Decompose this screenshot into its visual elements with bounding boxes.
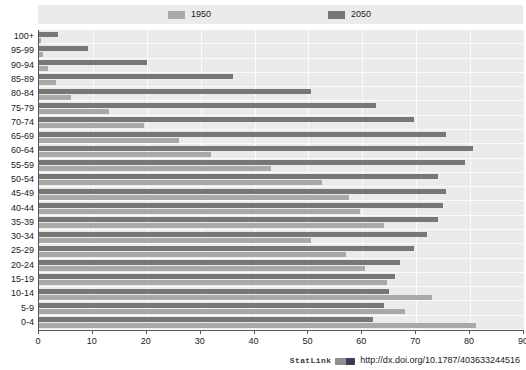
bar-1950 [39,309,405,314]
bar-2050 [39,46,88,51]
row-separator [39,315,524,316]
x-axis-tick [146,330,147,334]
y-axis-tick-label: 100+ [14,31,34,41]
x-axis-tick [523,330,524,334]
row-separator [39,158,524,159]
bar-1950 [39,295,432,300]
y-axis-tick-label: 30-34 [11,231,34,241]
y-axis-tick-label: 40-44 [11,203,34,213]
row-separator [39,215,524,216]
x-axis-tick [200,330,201,334]
bar-2050 [39,260,400,265]
y-axis-tick-label: 95-99 [11,45,34,55]
y-axis-tick-label: 20-24 [11,260,34,270]
row-separator [39,186,524,187]
x-axis-tick-label: 0 [35,336,40,346]
legend-label-1950: 1950 [191,9,211,20]
y-axis-tick-label: 90-94 [11,60,34,70]
bar-2050 [39,203,443,208]
x-axis-tick [361,330,362,334]
legend-label-2050: 2050 [351,9,371,20]
y-axis-tick-label: 85-89 [11,74,34,84]
row-separator [39,129,524,130]
x-axis-tick-label: 10 [87,336,97,346]
bar-1950 [39,138,179,143]
row-separator [39,272,524,273]
row-separator [39,100,524,101]
bar-2050 [39,274,395,279]
bar-2050 [39,232,427,237]
bar-2050 [39,303,384,308]
y-axis-tick-label: 0-4 [21,317,34,327]
bar-1950 [39,223,384,228]
bar-2050 [39,189,446,194]
bar-1950 [39,152,211,157]
x-axis-line [38,330,524,331]
x-axis-tick [92,330,93,334]
x-axis-tick-label: 20 [141,336,151,346]
x-axis-tick-label: 50 [302,336,312,346]
bar-2050 [39,103,376,108]
y-axis-tick-label: 35-39 [11,217,34,227]
row-separator [39,143,524,144]
y-axis-tick-label: 75-79 [11,103,34,113]
bar-2050 [39,60,147,65]
bar-1950 [39,238,311,243]
bar-1950 [39,109,109,114]
x-axis-tick-label: 80 [464,336,474,346]
y-axis-labels: 100+95-9990-9485-8980-8475-7970-7465-696… [0,30,34,330]
y-axis-tick-label: 15-19 [11,274,34,284]
row-separator [39,72,524,73]
row-separator [39,115,524,116]
row-separator [39,258,524,259]
bar-2050 [39,89,311,94]
bar-2050 [39,146,473,151]
legend-swatch-2050 [328,11,345,19]
bar-2050 [39,74,233,79]
bar-2050 [39,217,438,222]
chart-legend: 1950 2050 [38,5,523,24]
x-axis-tick [469,330,470,334]
y-axis-tick-label: 80-84 [11,88,34,98]
row-separator [39,300,524,301]
bar-1950 [39,166,271,171]
row-separator [39,43,524,44]
x-axis-tick-label: 30 [195,336,205,346]
x-axis-tick-label: 90 [518,336,526,346]
plot-area [38,30,524,330]
y-axis-tick-label: 65-69 [11,131,34,141]
y-axis-tick-label: 55-59 [11,160,34,170]
bar-1950 [39,38,41,43]
bar-1950 [39,52,43,57]
gridline [524,30,525,330]
y-axis-tick-label: 25-29 [11,245,34,255]
bar-1950 [39,123,144,128]
bar-1950 [39,180,322,185]
row-separator [39,58,524,59]
y-axis-tick-label: 50-54 [11,174,34,184]
legend-item-1950: 1950 [168,9,211,20]
x-axis-tick [307,330,308,334]
x-axis-tick [254,330,255,334]
y-axis-tick-label: 60-64 [11,145,34,155]
y-axis-tick-label: 45-49 [11,188,34,198]
bar-2050 [39,32,58,37]
bar-2050 [39,132,446,137]
bar-1950 [39,280,387,285]
statlink-icon [335,358,355,365]
x-axis-tick-label: 60 [356,336,366,346]
y-axis-tick-label: 70-74 [11,117,34,127]
population-pyramid-chart: 1950 2050 100+95-9990-9485-8980-8475-797… [0,0,526,370]
bar-1950 [39,66,48,71]
y-axis-tick-label: 5-9 [21,303,34,313]
row-separator [39,286,524,287]
chart-footer: StatLink http://dx.doi.org/10.1787/40363… [0,352,526,368]
bar-2050 [39,174,438,179]
bar-2050 [39,289,389,294]
row-separator [39,200,524,201]
doi-link[interactable]: http://dx.doi.org/10.1787/403633244516 [360,355,520,365]
row-separator [39,86,524,87]
bar-1950 [39,266,365,271]
bar-1950 [39,323,476,328]
bar-2050 [39,317,373,322]
